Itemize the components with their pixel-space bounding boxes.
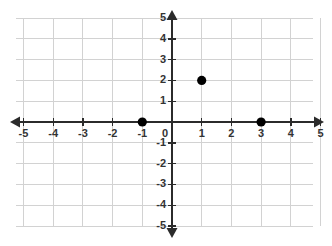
coordinate-plane-figure: -5-4-3-2-1012345-5-4-3-2-112345 (-1, 0)(… bbox=[0, 0, 332, 246]
y-tick-label: 1 bbox=[160, 94, 166, 106]
y-tick-label: 3 bbox=[160, 53, 166, 65]
y-tick-label: -3 bbox=[156, 177, 166, 189]
x-tick-label: -5 bbox=[19, 127, 29, 139]
x-tick-label: 2 bbox=[228, 127, 234, 139]
x-tick-label: 1 bbox=[199, 127, 205, 139]
y-tick-label: -5 bbox=[156, 219, 166, 231]
y-tick-label: 5 bbox=[160, 11, 166, 23]
data-point: (3, 0) bbox=[257, 117, 266, 126]
y-tick-label: 2 bbox=[160, 73, 166, 85]
y-tick-label: -1 bbox=[156, 136, 166, 148]
x-tick-label: 5 bbox=[317, 127, 323, 139]
x-tick-label: 3 bbox=[258, 127, 264, 139]
x-tick-label: 4 bbox=[288, 127, 295, 139]
x-tick-label: -4 bbox=[48, 127, 59, 139]
coordinate-plane-svg: -5-4-3-2-1012345-5-4-3-2-112345 (-1, 0)(… bbox=[0, 0, 332, 246]
y-tick-label: -2 bbox=[156, 157, 166, 169]
x-tick-label: -2 bbox=[108, 127, 118, 139]
x-tick-label: -3 bbox=[78, 127, 88, 139]
y-tick-label: 4 bbox=[160, 32, 167, 44]
data-point: (1, 2) bbox=[197, 76, 206, 85]
y-tick-label: -4 bbox=[156, 198, 167, 210]
data-point: (-1, 0) bbox=[138, 117, 147, 126]
x-tick-label: -1 bbox=[137, 127, 147, 139]
